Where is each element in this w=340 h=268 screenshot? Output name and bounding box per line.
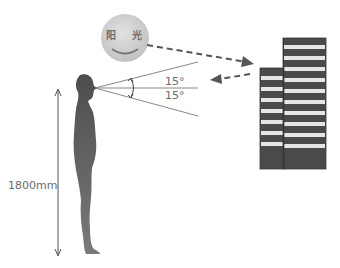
standing-person-icon bbox=[74, 74, 100, 254]
dashed-arrow-building-to-eye bbox=[210, 74, 250, 84]
upper-angle-label: 15° bbox=[165, 75, 185, 88]
height-dimension-arrow bbox=[55, 89, 61, 256]
sunlight-glare-diagram: 阳 光 15° 15° 1800mm bbox=[0, 0, 340, 268]
striped-building-icon bbox=[260, 38, 326, 169]
height-label: 1800mm bbox=[8, 179, 57, 192]
dashed-arrow-sun-to-building bbox=[147, 45, 254, 67]
sun-label: 阳 光 bbox=[103, 27, 151, 42]
lower-angle-label: 15° bbox=[165, 89, 185, 102]
